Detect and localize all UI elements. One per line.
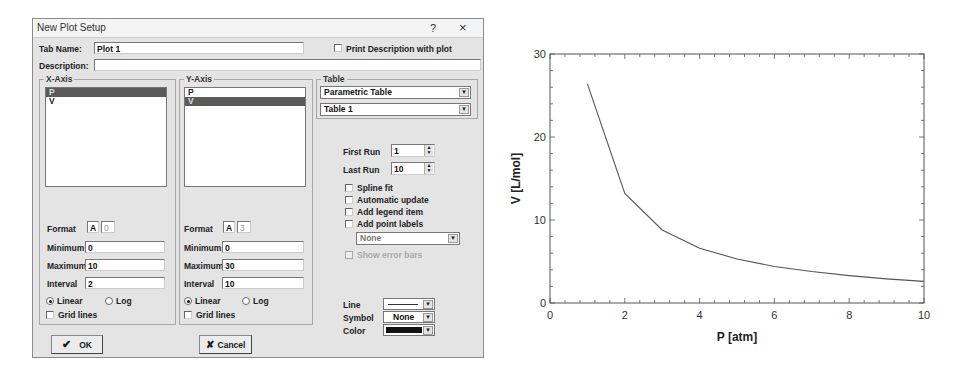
y-tick-label: 20 (534, 131, 546, 143)
tab-name-label: Tab Name: (39, 44, 82, 54)
x-linear-label: Linear (57, 296, 83, 306)
automatic-update-label: Automatic update (357, 195, 429, 205)
help-icon[interactable]: ? (430, 22, 436, 34)
symbol-select[interactable]: None ▼ (383, 311, 435, 323)
x-grid-lines-checkbox[interactable] (46, 311, 54, 319)
x-log-label: Log (116, 296, 132, 306)
y-linear-label: Linear (195, 296, 221, 306)
x-minimum-input[interactable]: 0 (85, 241, 165, 253)
first-run-input[interactable]: 1 ▲▼ (391, 144, 435, 157)
y-minimum-input[interactable]: 0 (222, 241, 304, 253)
last-run-value: 10 (394, 164, 403, 174)
y-log-radio[interactable] (242, 297, 250, 305)
spinner-icon[interactable]: ▲▼ (424, 145, 433, 156)
x-linear-radio[interactable] (46, 297, 54, 305)
chart-svg: 02468100102030P [atm]V [L/mol] (500, 0, 957, 386)
table-type-value: Parametric Table (324, 87, 392, 97)
y-axis-title: Y-Axis (184, 74, 214, 84)
table-title: Table (321, 74, 347, 84)
tab-name-input[interactable]: Plot 1 (94, 42, 304, 54)
y-maximum-input[interactable]: 30 (222, 259, 304, 271)
x-format-digits-input[interactable]: 0 (101, 221, 115, 233)
x-axis-title: X-Axis (44, 74, 74, 84)
y-grid-lines-checkbox[interactable] (184, 311, 192, 319)
x-tick-label: 10 (918, 309, 930, 321)
x-interval-input[interactable]: 2 (85, 277, 165, 289)
spline-fit-checkbox[interactable] (345, 184, 353, 192)
y-log-label: Log (253, 296, 269, 306)
point-labels-select[interactable]: None ▼ (356, 232, 460, 245)
point-labels-value: None (360, 233, 381, 243)
y-linear-radio[interactable] (184, 297, 192, 305)
table-name-select[interactable]: Table 1 ▼ (320, 103, 471, 116)
chevron-down-icon[interactable]: ▼ (423, 313, 433, 322)
chevron-down-icon[interactable]: ▼ (459, 105, 469, 114)
spinner-icon[interactable]: ▲▼ (424, 163, 433, 174)
x-minimum-label: Minimum (47, 243, 84, 253)
last-run-input[interactable]: 10 ▲▼ (391, 162, 435, 175)
new-plot-setup-dialog: New Plot Setup ? × Tab Name: Plot 1 Prin… (32, 18, 484, 358)
first-run-value: 1 (394, 146, 399, 156)
automatic-update-checkbox[interactable] (345, 196, 353, 204)
add-point-labels-checkbox[interactable] (345, 220, 353, 228)
y-format-digits-input[interactable]: 3 (237, 221, 251, 233)
x-axis-variable-list[interactable]: P V (45, 87, 167, 187)
chevron-down-icon[interactable]: ▼ (423, 300, 433, 309)
chevron-down-icon[interactable]: ▼ (448, 234, 458, 243)
print-description-label: Print Description with plot (346, 44, 452, 54)
line-style-select[interactable]: ▼ (383, 298, 435, 310)
table-name-value: Table 1 (324, 104, 353, 114)
color-label: Color (343, 326, 365, 336)
print-description-checkbox[interactable] (334, 44, 342, 52)
show-error-bars-checkbox[interactable] (345, 251, 353, 259)
last-run-label: Last Run (343, 165, 379, 175)
x-axis-list-item-p[interactable]: P (46, 88, 166, 97)
x-tick-label: 6 (771, 309, 777, 321)
y-grid-lines-label: Grid lines (196, 310, 235, 320)
close-icon[interactable]: × (459, 20, 467, 35)
y-interval-label: Interval (184, 279, 214, 289)
x-grid-lines-label: Grid lines (58, 310, 97, 320)
cancel-button[interactable]: ✘ Cancel (199, 335, 252, 354)
y-format-type-input[interactable]: A (223, 221, 235, 233)
x-format-type-input[interactable]: A (87, 221, 99, 233)
y-minimum-label: Minimum (184, 243, 221, 253)
plot-chart: 02468100102030P [atm]V [L/mol] (500, 0, 957, 386)
add-point-labels-label: Add point labels (357, 219, 423, 229)
x-tick-label: 0 (547, 309, 553, 321)
dialog-titlebar[interactable]: New Plot Setup ? × (33, 19, 483, 38)
cancel-label: Cancel (218, 340, 246, 350)
description-input[interactable] (94, 59, 481, 71)
ok-label: OK (79, 340, 92, 350)
x-maximum-input[interactable]: 10 (85, 259, 165, 271)
x-log-radio[interactable] (105, 297, 113, 305)
symbol-value: None (387, 312, 414, 322)
chevron-down-icon[interactable]: ▼ (423, 326, 433, 335)
add-legend-item-checkbox[interactable] (345, 208, 353, 216)
ok-button[interactable]: ✔ OK (51, 335, 103, 354)
x-maximum-label: Maximum (47, 261, 86, 271)
color-select[interactable]: ▼ (383, 324, 435, 336)
x-axis-list-item-v[interactable]: V (46, 97, 166, 106)
y-tick-label: 0 (540, 297, 546, 309)
spline-fit-label: Spline fit (357, 183, 393, 193)
add-legend-item-label: Add legend item (357, 207, 423, 217)
series-line (587, 84, 924, 282)
table-type-select[interactable]: Parametric Table ▼ (320, 86, 471, 99)
description-label: Description: (39, 61, 89, 71)
symbol-label: Symbol (343, 313, 374, 323)
y-axis-list-item-p[interactable]: P (185, 88, 305, 97)
y-axis-label: V [L/mol] (509, 153, 523, 204)
x-tick-label: 8 (846, 309, 852, 321)
color-swatch (386, 327, 422, 333)
y-interval-input[interactable]: 10 (222, 277, 304, 289)
cancel-x-icon: ✘ (206, 339, 214, 350)
x-tick-label: 4 (697, 309, 703, 321)
checkmark-icon: ✔ (62, 338, 71, 351)
line-label: Line (343, 300, 360, 310)
dialog-title: New Plot Setup (37, 22, 106, 33)
chevron-down-icon[interactable]: ▼ (459, 88, 469, 97)
show-error-bars-label: Show error bars (357, 250, 422, 260)
y-axis-list-item-v[interactable]: V (185, 97, 305, 106)
y-axis-variable-list[interactable]: P V (184, 87, 306, 187)
